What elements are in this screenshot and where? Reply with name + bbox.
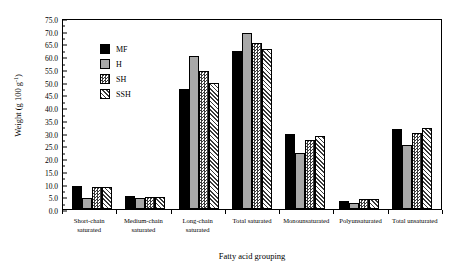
y-axis-tick-mark [63,211,67,212]
x-axis-tick-mark [225,210,226,214]
x-axis-tick-label-line: saturated [171,225,225,234]
legend-label: SH [116,75,126,84]
y-axis-tick-label: 40.0 [45,105,63,114]
bar [135,198,145,209]
bar-group [332,20,385,209]
bar [102,187,112,209]
bar [305,140,315,209]
x-axis-tick-label-line: saturated [62,225,116,234]
x-axis-tick-label: Total unsaturated [388,216,442,234]
legend-label: SSH [116,90,131,99]
x-axis-title: Fatty acid grouping [62,251,442,261]
legend-item: SSH [100,89,131,99]
x-axis-tick-label-line: saturated [116,225,170,234]
bar [92,187,102,209]
bar [359,199,369,209]
bar [252,43,262,209]
y-axis-tick-label: 60.0 [45,54,63,63]
y-axis-title-close: ) [13,74,23,77]
x-axis-tick-mark [388,210,389,214]
x-axis-tick-label: Long-chainsaturated [171,216,225,234]
bar [199,71,209,209]
y-axis-title-exponent: -1 [13,77,19,82]
legend-label: MF [116,45,128,54]
chart-figure: Weight (g 100 g-1) 0.05.010.015.020.025.… [0,0,459,274]
x-axis-tick-label-line: Polyunsaturated [333,216,387,225]
x-axis-tick-mark [279,210,280,214]
x-axis-tick-label-line: Total unsaturated [388,216,442,225]
y-axis-tick-label: 70.0 [45,28,63,37]
bar-group [279,20,332,209]
legend-label: H [116,60,122,69]
legend-item: H [100,59,131,69]
bar [72,186,82,209]
x-axis-tick-label: Monounsaturated [279,216,333,234]
y-axis-title-text: Weight (g 100 g [13,82,23,137]
bar [422,128,432,209]
y-axis-tick-label: 75.0 [45,16,63,25]
x-axis-tick-label-line: Monounsaturated [279,216,333,225]
x-axis-tick-label: Short-chainsaturated [62,216,116,234]
x-axis-tick-label: Total saturated [225,216,279,234]
x-axis-tick-label-line: Total saturated [225,216,279,225]
y-axis-tick-label: 55.0 [45,66,63,75]
bar-group [172,20,225,209]
bar-group [386,20,439,209]
x-axis-tick-label-line: Medium-chain [116,216,170,225]
x-axis-tick-label-line: Short-chain [62,216,116,225]
x-axis-tick-mark [171,210,172,214]
bar [295,153,305,209]
bar [315,136,325,209]
x-axis-tick-label: Polyunsaturated [333,216,387,234]
y-axis-tick-label: 65.0 [45,41,63,50]
bar [349,203,359,209]
legend-swatch [100,89,110,99]
x-axis-tick-mark [333,210,334,214]
y-axis-tick-label: 25.0 [45,143,63,152]
chart-legend: MFHSHSSH [100,44,131,99]
legend-swatch [100,74,110,84]
x-axis-tick-mark [442,210,443,214]
y-axis-tick-label: 35.0 [45,117,63,126]
x-axis-tick-mark [116,210,117,214]
legend-swatch [100,44,110,54]
bar [242,33,252,209]
y-axis-tick-label: 10.0 [45,181,63,190]
legend-swatch [100,59,110,69]
bar [209,83,219,209]
bar [179,89,189,209]
x-axis-tick-label-line: Long-chain [171,216,225,225]
bar [285,134,295,209]
bar [369,199,379,209]
y-axis-tick-label: 45.0 [45,92,63,101]
y-axis-tick-label: 50.0 [45,79,63,88]
bar [125,196,135,209]
y-axis-tick-label: 15.0 [45,168,63,177]
bar [262,49,272,209]
bar [402,145,412,209]
x-axis-tick-label: Medium-chainsaturated [116,216,170,234]
legend-item: MF [100,44,131,54]
bar [82,198,92,209]
bar [189,56,199,209]
bar [155,197,165,209]
bar [339,201,349,209]
y-axis-title: Weight (g 100 g-1) [13,25,24,185]
x-axis-labels: Short-chainsaturatedMedium-chainsaturate… [62,216,442,234]
bar [145,197,155,209]
bar-group [225,20,278,209]
y-axis-tick-label: 5.0 [49,194,63,203]
legend-item: SH [100,74,131,84]
bar [412,133,422,209]
x-axis-tick-mark [62,210,63,214]
bar [232,51,242,209]
bar [392,129,402,209]
y-axis-tick-label: 20.0 [45,156,63,165]
y-axis-tick-label: 30.0 [45,130,63,139]
y-axis-tick-label: 0.0 [49,207,63,216]
